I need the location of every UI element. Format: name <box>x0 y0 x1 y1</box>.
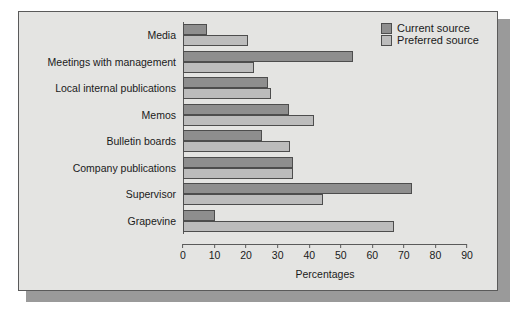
x-tick: 90 <box>461 244 473 261</box>
x-tick: 10 <box>209 244 221 261</box>
category-label: Company publications <box>73 162 176 174</box>
category-label: Meetings with management <box>48 56 176 68</box>
x-tick: 20 <box>240 244 252 261</box>
x-tick: 50 <box>335 244 347 261</box>
legend-label-current-source: Current source <box>397 22 470 34</box>
plot-area: MediaMeetings with managementLocal inter… <box>183 22 467 234</box>
x-tick-mark <box>309 244 310 248</box>
x-tick-label: 50 <box>335 249 347 261</box>
bar-preferred-source <box>183 168 293 179</box>
legend-label-preferred-source: Preferred source <box>397 34 479 46</box>
bar-preferred-source <box>183 115 314 126</box>
bar-group: Memos <box>183 102 467 129</box>
category-label: Media <box>147 29 176 41</box>
x-tick: 40 <box>303 244 315 261</box>
x-tick-mark <box>467 244 468 248</box>
bar-preferred-source <box>183 88 271 99</box>
x-tick-mark <box>183 244 184 248</box>
bar-preferred-source <box>183 141 290 152</box>
bar-group: Grapevine <box>183 208 467 235</box>
legend-item-current-source: Current source <box>381 22 479 34</box>
x-axis-title: Percentages <box>183 268 467 280</box>
bar-current-source <box>183 130 262 141</box>
x-tick-mark <box>214 244 215 248</box>
bar-current-source <box>183 183 412 194</box>
bar-current-source <box>183 77 268 88</box>
chart-legend: Current source Preferred source <box>381 22 479 46</box>
category-label: Memos <box>142 109 176 121</box>
x-tick: 30 <box>272 244 284 261</box>
x-tick-mark <box>277 244 278 248</box>
x-tick: 80 <box>430 244 442 261</box>
chart-frame: MediaMeetings with managementLocal inter… <box>18 11 498 291</box>
bar-preferred-source <box>183 194 323 205</box>
x-tick-mark <box>435 244 436 248</box>
x-tick-label: 60 <box>366 249 378 261</box>
x-tick-label: 0 <box>180 249 186 261</box>
x-tick-mark <box>403 244 404 248</box>
category-label: Local internal publications <box>55 82 176 94</box>
bar-group: Company publications <box>183 155 467 182</box>
bar-group: Bulletin boards <box>183 128 467 155</box>
x-tick: 0 <box>180 244 186 261</box>
x-tick-mark <box>246 244 247 248</box>
x-tick-mark <box>372 244 373 248</box>
bar-current-source <box>183 210 215 221</box>
category-label: Bulletin boards <box>107 135 176 147</box>
bar-preferred-source <box>183 62 254 73</box>
bar-current-source <box>183 24 207 35</box>
chart-figure: MediaMeetings with managementLocal inter… <box>0 0 518 318</box>
bar-group: Meetings with management <box>183 49 467 76</box>
legend-swatch-preferred-source <box>381 35 392 46</box>
x-tick-label: 70 <box>398 249 410 261</box>
category-label: Supervisor <box>126 188 176 200</box>
category-label: Grapevine <box>128 215 176 227</box>
bar-groups: MediaMeetings with managementLocal inter… <box>183 22 467 234</box>
bar-current-source <box>183 104 289 115</box>
x-tick-label: 40 <box>303 249 315 261</box>
x-tick-label: 10 <box>209 249 221 261</box>
bar-group: Supervisor <box>183 181 467 208</box>
bar-preferred-source <box>183 221 394 232</box>
x-tick-label: 90 <box>461 249 473 261</box>
x-axis-ticks: 0102030405060708090 <box>183 244 467 262</box>
x-tick: 60 <box>366 244 378 261</box>
bar-current-source <box>183 51 353 62</box>
bar-preferred-source <box>183 35 248 46</box>
x-tick: 70 <box>398 244 410 261</box>
x-tick-label: 30 <box>272 249 284 261</box>
bar-current-source <box>183 157 293 168</box>
x-tick-mark <box>340 244 341 248</box>
bar-group: Local internal publications <box>183 75 467 102</box>
legend-swatch-current-source <box>381 23 392 34</box>
legend-item-preferred-source: Preferred source <box>381 34 479 46</box>
x-tick-label: 20 <box>240 249 252 261</box>
x-tick-label: 80 <box>430 249 442 261</box>
